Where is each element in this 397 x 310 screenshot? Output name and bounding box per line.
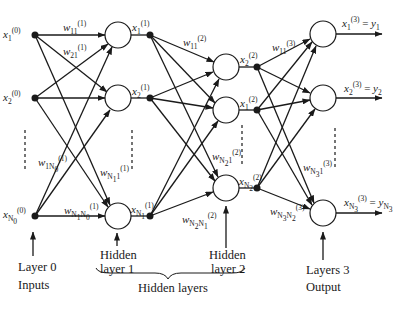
neuron-l1-n [105, 203, 131, 229]
caption-hidden1-a: Hidden [100, 248, 137, 262]
label-xN2-2: xN2(2) [239, 174, 262, 192]
neuron-l3-1 [310, 21, 336, 47]
weight-w11-1: w11(1) [63, 20, 86, 35]
label-yN3: xN3(3) = yN3 [344, 195, 393, 213]
caption-hidden-layers: Hidden layers [138, 281, 208, 295]
label-x1-2: x1(2) [240, 96, 257, 111]
label-x1-1: x1(1) [132, 20, 149, 35]
label-xN0-0: xN0(0) [3, 207, 26, 225]
neurons [105, 21, 336, 229]
connections-layer1 [35, 35, 112, 216]
neuron-l2-n [213, 175, 239, 201]
weight-w1N0-1: w1N0(1) [38, 155, 67, 173]
caption-inputs: Inputs [18, 278, 49, 292]
caption-output: Output [306, 280, 341, 294]
neuron-l1-2 [105, 85, 131, 111]
weight-wN31-3: wN31(3) [303, 160, 332, 178]
weight-w11-2: w11(2) [183, 35, 206, 50]
label-x2-0: x2(0) [3, 90, 20, 105]
label-y1: x1(3) = y1 [342, 16, 380, 31]
weight-wN3N2-3: wN3N2(3) [270, 204, 304, 222]
label-x2-2: x2(2) [240, 52, 257, 67]
neuron-l2-1 [213, 54, 239, 80]
connections-layer2 [131, 35, 219, 216]
label-xN1-1: xN1(1) [131, 202, 154, 220]
caption-hidden2-b: layer 2 [211, 262, 245, 276]
weight-wN11-1: wN11(1) [100, 165, 129, 183]
caption-hidden1-b: layer 1 [100, 262, 134, 276]
neuron-l3-2 [310, 85, 336, 111]
weight-w21-1: w21(1) [63, 44, 87, 59]
neuron-l2-2 [213, 97, 239, 123]
label-x2-1: x2(1) [132, 84, 149, 99]
weight-wN1N0-1: wN1N0(1) [64, 203, 98, 221]
neuron-l3-n [310, 200, 336, 226]
weight-wN21-2: wN21(2) [212, 149, 241, 167]
weight-w11-3: w11(3) [272, 40, 295, 55]
caption-hidden2-a: Hidden [209, 248, 246, 262]
weight-wN2N1-2: wN2N1(2) [182, 212, 216, 230]
caption-layer0: Layer 0 [18, 260, 57, 274]
label-x1-0: x1(0) [3, 27, 20, 42]
label-y2: x2(3) = y2 [344, 81, 382, 96]
neuron-l1-1 [105, 22, 131, 48]
caption-layer3: Layers 3 [306, 263, 349, 277]
